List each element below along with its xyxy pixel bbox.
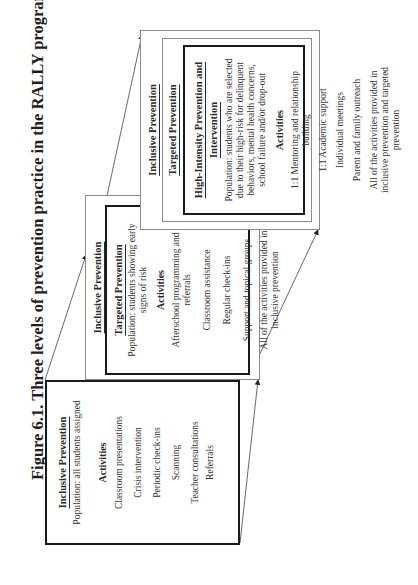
inclusive-prevention-box: Inclusive Prevention Population: all stu… (45, 380, 240, 545)
level-3-activities-heading: Activities (274, 110, 285, 150)
level-1-activity: Teacher consultations (190, 421, 201, 503)
level-2-activities-heading: Activities (155, 270, 166, 310)
level-1-activity: Periodic check-ins (152, 427, 163, 497)
targeted-prevention-box: Targeted Prevention Population: students… (105, 205, 250, 375)
level-3-activity: Individual meetings (335, 92, 346, 168)
diagram-canvas: Figure 6.1. Three levels of prevention p… (0, 0, 418, 585)
level-3-activity: 1:1 Mentoring and relationship building (290, 65, 312, 195)
level-2-outer-label: Inclusive Prevention (92, 242, 103, 334)
level-2-title: Targeted Prevention (113, 244, 124, 335)
level-2-activity: Classroom assistance (202, 250, 213, 331)
level-3-activity: All of the activities provided in inclus… (369, 55, 402, 205)
level-3-middle-label: Targeted Prevention (167, 84, 178, 175)
level-2-activity: All of the activities provided in inclus… (259, 225, 281, 355)
level-2-activity: Afterschool programming and referrals (171, 225, 193, 355)
level-2-population: Population: students showing early signs… (127, 223, 149, 358)
level-1-population: Population: all students assigned (72, 400, 83, 524)
level-1-title: Inclusive Prevention (57, 417, 68, 509)
level-1-activities-heading: Activities (97, 443, 108, 483)
level-1-activity: Crisis intervention (133, 427, 144, 497)
level-1-activity: Scanning (171, 445, 182, 480)
level-3-title: High-Intensity Prevention and Interventi… (191, 60, 221, 200)
level-1-activity: Classroom presentations (114, 416, 125, 509)
level-3-outer-label: Inclusive Prevention (147, 84, 158, 176)
level-3-activity: Parent and family outreach (352, 79, 363, 182)
level-1-activity: Referrals (205, 445, 216, 480)
level-2-activity: Regular check-ins (222, 256, 233, 325)
level-2-activity: Support and topical groups (242, 239, 253, 342)
level-3-population: Population: students who are selected du… (224, 55, 268, 205)
high-intensity-box: High-Intensity Prevention and Interventi… (183, 45, 305, 215)
level-3-activity: 1:1 Academic support (318, 88, 329, 171)
